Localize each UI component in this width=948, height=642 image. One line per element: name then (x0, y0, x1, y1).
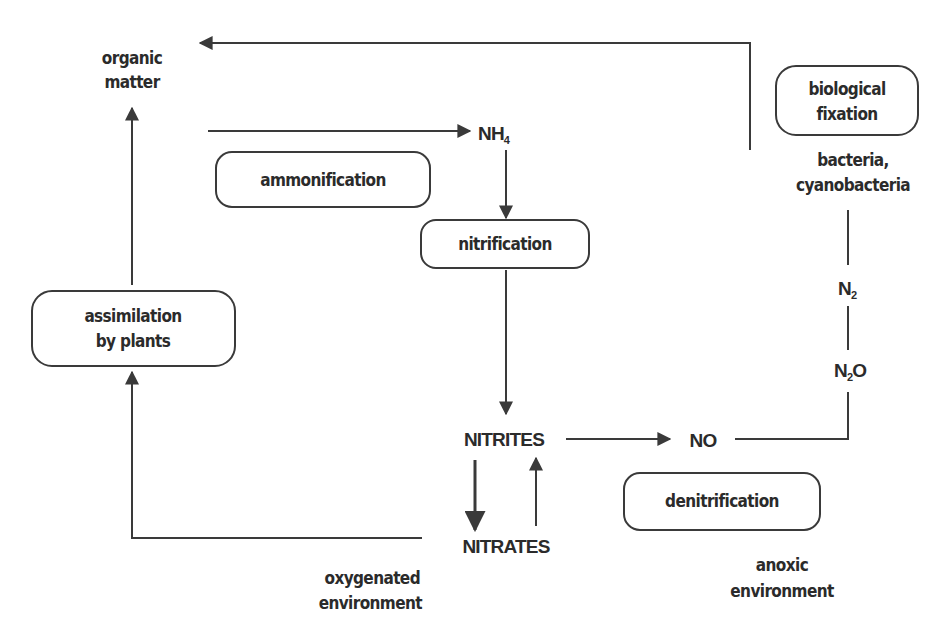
svg-text:N2: N2 (838, 278, 857, 301)
label-anoxic-environment: anoxic environment (730, 555, 834, 601)
node-nh4: NH4 (478, 123, 511, 146)
bacteria-line1: bacteria, (817, 150, 889, 170)
oxygenated-line1: oxygenated (324, 568, 420, 588)
node-organic-matter: organic matter (102, 48, 163, 92)
nitrogen-cycle-diagram: ammonification nitrification assimilatio… (0, 0, 948, 642)
svg-text:N2O: N2O (834, 360, 866, 383)
nh4-subscript: 4 (504, 134, 511, 146)
assimilation-label-line1: assimilation (84, 306, 181, 326)
process-nitrification: nitrification (421, 220, 589, 268)
anoxic-line1: anoxic (756, 555, 809, 575)
nitrification-label: nitrification (458, 234, 552, 254)
anoxic-line2: environment (730, 581, 834, 601)
assimilation-label-line2: by plants (96, 331, 171, 351)
node-nitrates: NITRATES (462, 536, 549, 557)
n2o-suffix: O (852, 360, 866, 381)
process-biological-fixation: biological fixation (776, 66, 918, 135)
n2o-base: N (834, 360, 847, 381)
biological-fixation-label-line2: fixation (816, 104, 877, 124)
n2-base: N (838, 278, 851, 299)
ammonification-label: ammonification (260, 170, 386, 190)
node-no: NO (690, 430, 717, 451)
oxygenated-line2: environment (319, 593, 423, 613)
node-n2: N2 (838, 278, 857, 301)
organic-matter-line1: organic (102, 48, 163, 68)
n2-subscript: 2 (851, 289, 857, 301)
biological-fixation-label-line1: biological (808, 79, 885, 99)
process-denitrification: denitrification (624, 473, 820, 530)
edge-no-to-n2o (735, 392, 848, 439)
edge-nitrates-to-assimilation (132, 372, 422, 538)
nitrites-label: NITRITES (464, 429, 544, 450)
nitrates-label: NITRATES (462, 536, 549, 557)
organic-matter-line2: matter (104, 72, 160, 92)
bacteria-line2: cyanobacteria (796, 175, 910, 195)
process-assimilation: assimilation by plants (32, 291, 235, 366)
svg-text:NH4: NH4 (478, 123, 511, 146)
label-oxygenated-environment: oxygenated environment (319, 568, 423, 613)
node-bacteria: bacteria, cyanobacteria (796, 150, 910, 195)
no-label: NO (690, 430, 717, 451)
nh4-base: NH (478, 123, 504, 144)
process-ammonification: ammonification (216, 152, 430, 207)
node-n2o: N2O (834, 360, 866, 383)
edge-fixation-to-organic-matter (200, 43, 750, 150)
denitrification-label: denitrification (665, 491, 779, 511)
node-nitrites: NITRITES (464, 429, 544, 450)
